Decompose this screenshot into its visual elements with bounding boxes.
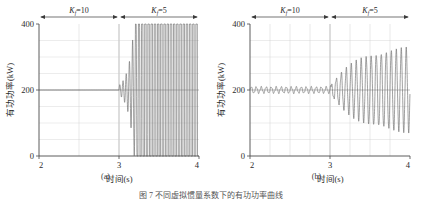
y-axis-label: 有功功率(kW) xyxy=(216,63,226,117)
region-annotation-label: Kf=5 xyxy=(361,6,377,16)
chart-panel-a: 0200400234时间(s)有功功率(kW)Kf=10Kf=5 (a) xyxy=(0,0,211,199)
x-tick-label: 2 xyxy=(39,160,43,170)
region-annotation: Kf=10 xyxy=(252,6,328,17)
x-tick-label: 4 xyxy=(406,160,411,170)
figure-container: 0200400234时间(s)有功功率(kW)Kf=10Kf=5 (a) 020… xyxy=(0,0,422,199)
y-tick-label: 0 xyxy=(30,151,34,161)
x-tick-label: 4 xyxy=(195,160,200,170)
x-tick-label: 3 xyxy=(117,160,121,170)
x-tick-label: 3 xyxy=(328,160,332,170)
panel-b-sublabel: (b) xyxy=(211,172,422,181)
region-annotation-label: Kf=10 xyxy=(279,6,299,16)
x-tick-label: 2 xyxy=(250,160,254,170)
y-tick-label: 200 xyxy=(232,85,245,95)
y-tick-label: 0 xyxy=(241,151,245,161)
panel-a-sublabel: (a) xyxy=(0,172,211,181)
region-annotation: Kf=10 xyxy=(41,6,117,17)
region-annotation-label: Kf=10 xyxy=(68,6,88,16)
chart-svg-b: 0200400234时间(s)有功功率(kW)Kf=10Kf=5 xyxy=(211,0,422,199)
y-axis-label: 有功功率(kW) xyxy=(5,63,15,117)
region-annotation: Kf=5 xyxy=(121,6,197,17)
region-annotation-label: Kf=5 xyxy=(150,6,166,16)
chart-svg-a: 0200400234时间(s)有功功率(kW)Kf=10Kf=5 xyxy=(0,0,211,199)
chart-panel-b: 0200400234时间(s)有功功率(kW)Kf=10Kf=5 (b) xyxy=(211,0,422,199)
figure-caption: 图 7 不同虚拟惯量系数下的有功功率曲线 xyxy=(0,191,422,199)
y-tick-label: 400 xyxy=(21,19,34,29)
region-annotation: Kf=5 xyxy=(332,6,408,17)
y-tick-label: 200 xyxy=(21,85,34,95)
y-tick-label: 400 xyxy=(232,19,245,29)
